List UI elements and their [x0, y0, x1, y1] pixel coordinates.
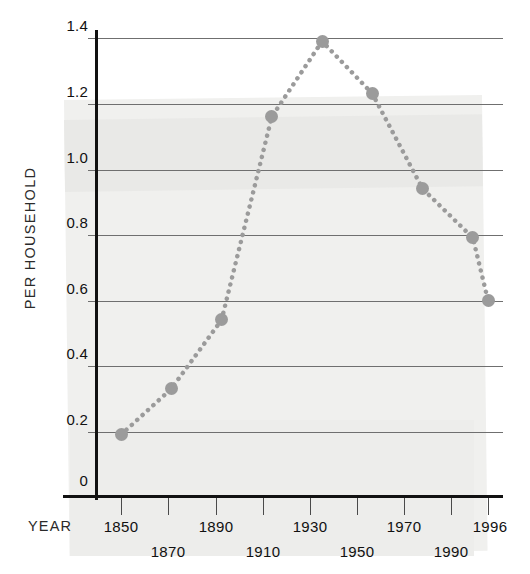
ytick-1_4: 1.4 — [30, 18, 88, 34]
ytick-0_4: 0.4 — [30, 346, 88, 362]
xtick-label-1970: 1970 — [369, 518, 439, 535]
gridline-0_8 — [88, 235, 503, 236]
ytick-1_2: 1.2 — [30, 84, 88, 100]
data-point-1930 — [316, 35, 329, 48]
xtick-label-1930: 1930 — [275, 518, 345, 535]
xtick-mark-1890 — [216, 498, 217, 515]
xtick-mark-1850 — [121, 498, 122, 515]
gridline-0_2 — [88, 432, 503, 433]
ytick-label: 0.8 — [34, 215, 88, 230]
xtick-label-1950: 1950 — [322, 543, 392, 560]
gridline-0_4 — [88, 366, 503, 367]
ytick-label: 0.4 — [34, 346, 88, 361]
data-point-1910 — [265, 110, 278, 123]
xtick-mark-1996 — [488, 498, 489, 515]
y-axis-line — [95, 30, 98, 500]
y-axis-title: PER HOUSEHOLD — [22, 148, 38, 328]
ytick-0: 0 — [30, 473, 88, 489]
xtick-label-1870: 1870 — [133, 543, 203, 560]
gridline-0_6 — [88, 301, 503, 302]
ytick-label: 0.2 — [34, 412, 88, 427]
xtick-mark-1870 — [168, 498, 169, 515]
x-axis-line — [63, 495, 503, 498]
xtick-label-1910: 1910 — [228, 543, 298, 560]
data-point-1870 — [165, 382, 178, 395]
ytick-0_8: 0.8 — [30, 215, 88, 231]
ytick-label: 0.6 — [34, 281, 88, 296]
line-chart: 1.4 1.2 1.0 0.8 0.6 0.4 0.2 0 PER HOUSEH… — [0, 0, 530, 574]
xtick-label-1990: 1990 — [416, 543, 486, 560]
xtick-mark-1950 — [357, 498, 358, 515]
xtick-mark-1930 — [310, 498, 311, 515]
data-point-1950 — [366, 87, 379, 100]
data-point-1850 — [115, 428, 128, 441]
data-point-1990 — [466, 231, 479, 244]
data-point-1890 — [215, 313, 228, 326]
ytick-0_2: 0.2 — [30, 412, 88, 428]
ytick-label: 1.0 — [34, 150, 88, 165]
xtick-mark-1990 — [451, 498, 452, 515]
ytick-label: 1.4 — [34, 18, 88, 33]
xtick-label-1850: 1850 — [86, 518, 156, 535]
x-axis-title: YEAR — [28, 518, 72, 534]
xtick-label-1996: 1996 — [455, 518, 525, 535]
xtick-mark-1970 — [404, 498, 405, 515]
ytick-label: 0 — [34, 473, 88, 488]
ytick-0_6: 0.6 — [30, 281, 88, 297]
ytick-label: 1.2 — [34, 84, 88, 99]
gridline-1_0 — [88, 170, 503, 171]
gridline-1_4 — [88, 38, 503, 39]
data-point-1970 — [416, 182, 429, 195]
xtick-label-1890: 1890 — [181, 518, 251, 535]
ytick-1_0: 1.0 — [30, 150, 88, 166]
gridline-1_2 — [88, 104, 503, 105]
xtick-mark-1910 — [263, 498, 264, 515]
data-point-1996 — [482, 294, 495, 307]
